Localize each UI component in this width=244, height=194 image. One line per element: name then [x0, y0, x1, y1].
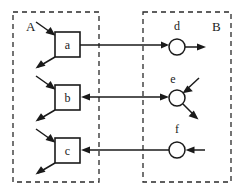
arrowhead-into-f	[186, 147, 195, 154]
node-circle-e[interactable]	[169, 90, 185, 106]
node-label-c: c	[65, 144, 70, 158]
node-label-e: e	[170, 72, 175, 86]
external-arrow-out-of-c	[36, 163, 56, 175]
node-circle-f[interactable]	[169, 142, 185, 158]
external-arrow-into-b	[36, 76, 56, 90]
arrowhead-into-e	[183, 85, 193, 93]
arrowhead-into-b	[46, 81, 56, 90]
arrowhead-into-a	[46, 27, 56, 36]
arrowhead-into-c	[46, 134, 56, 143]
arrowhead-out-of-b	[36, 113, 46, 121]
connection-a-to-d	[80, 42, 169, 49]
external-arrow-into-e	[183, 78, 200, 93]
diagram-svg: A B d a	[0, 0, 244, 194]
node-label-a: a	[65, 38, 71, 52]
external-arrow-out-of-b	[36, 110, 56, 122]
arrowhead-out-of-c	[36, 166, 46, 174]
region-a-label: A	[26, 19, 36, 34]
arrowhead-at-e	[160, 94, 169, 101]
external-arrow-out-of-a	[36, 57, 56, 69]
connection-f-to-c	[81, 147, 169, 154]
node-label-f: f	[175, 122, 179, 136]
diagram-canvas: A B d a	[0, 0, 244, 194]
external-arrow-out-of-e	[183, 104, 199, 120]
external-arrow-out-of-d	[185, 44, 206, 51]
node-label-b: b	[65, 91, 71, 105]
arrowhead-at-d	[161, 42, 169, 49]
arrowhead-at-c	[81, 147, 90, 154]
node-circle-d[interactable]	[169, 39, 185, 55]
arrowhead-out-of-a	[36, 60, 46, 68]
arrowhead-at-b	[81, 94, 90, 101]
external-arrow-into-c	[36, 129, 56, 143]
external-arrow-into-f	[186, 147, 206, 154]
region-b-label: B	[212, 19, 221, 34]
arrowhead-out-of-d	[197, 44, 206, 51]
node-label-d: d	[174, 19, 180, 33]
connection-b-to-e	[81, 94, 169, 101]
external-arrow-into-a	[36, 22, 56, 36]
